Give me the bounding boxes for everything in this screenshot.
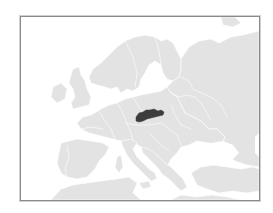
map-frame xyxy=(20,16,260,201)
locator-map-page: Slovakia xyxy=(0,0,273,213)
europe-map xyxy=(21,17,259,200)
caspian-edge xyxy=(255,133,259,157)
